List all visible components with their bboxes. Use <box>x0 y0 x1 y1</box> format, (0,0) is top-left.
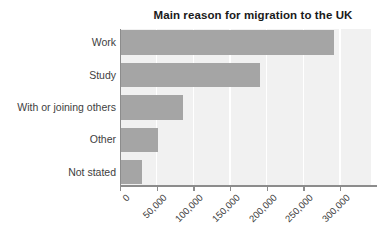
bar-with-or-joining-others <box>121 95 183 120</box>
chart-title: Main reason for migration to the UK <box>128 9 378 21</box>
tick-label: 100,000 <box>173 192 205 224</box>
bar-work <box>121 30 334 55</box>
tick-mark <box>230 187 231 192</box>
category-label: Not stated <box>0 166 116 178</box>
plot-area <box>120 29 371 185</box>
tick-mark <box>340 187 341 192</box>
gridline <box>339 29 340 185</box>
y-axis-line <box>120 29 121 186</box>
migration-bar-chart: Main reason for migration to the UK Work… <box>0 0 379 234</box>
tick-label: 200,000 <box>246 192 278 224</box>
category-label: Study <box>0 69 116 81</box>
tick-label: 250,000 <box>283 192 315 224</box>
tick-label: 300,000 <box>320 192 352 224</box>
tick-mark <box>157 187 158 192</box>
tick-mark <box>193 187 194 192</box>
bar-not-stated <box>121 160 142 185</box>
tick-label: 0 <box>120 192 132 204</box>
tick-mark <box>120 187 121 192</box>
tick-mark <box>267 187 268 192</box>
bar-other <box>121 128 158 153</box>
bar-study <box>121 63 260 88</box>
tick-label: 150,000 <box>210 192 242 224</box>
x-axis-line <box>120 185 377 187</box>
tick-label: 50,000 <box>140 192 168 220</box>
category-label: Work <box>0 36 116 48</box>
tick-mark <box>303 187 304 192</box>
category-label: Other <box>0 133 116 145</box>
category-label: With or joining others <box>0 101 116 113</box>
